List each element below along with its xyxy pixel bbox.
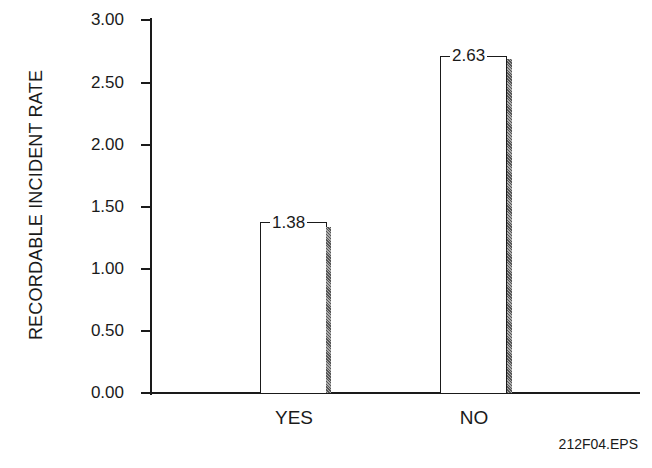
x-axis-line (150, 392, 640, 394)
y-tick (141, 144, 151, 146)
y-tick-label: 1.50 (64, 197, 124, 217)
x-category-label-yes: YES (254, 407, 334, 429)
x-category-label-no: NO (434, 407, 514, 429)
y-tick-label: 0.00 (64, 383, 124, 403)
bar-yes-shadow (326, 227, 331, 393)
y-tick (141, 268, 151, 270)
y-axis-label: RECORDABLE INCIDENT RATE (26, 70, 47, 340)
bar-no-value-label: 2.63 (450, 47, 487, 65)
y-tick (141, 392, 151, 394)
bar-yes-value-label: 1.38 (270, 214, 307, 232)
bar-no-shadow (507, 59, 512, 393)
bar-yes (260, 222, 327, 393)
y-tick (141, 206, 151, 208)
y-tick (141, 19, 151, 21)
y-tick-label: 2.50 (64, 73, 124, 93)
bar-no (440, 56, 507, 393)
y-tick-label: 3.00 (64, 10, 124, 30)
y-tick (141, 82, 151, 84)
y-tick (141, 330, 151, 332)
y-tick-label: 2.00 (64, 135, 124, 155)
y-tick-label: 0.50 (64, 321, 124, 341)
figure-id: 212F04.EPS (559, 436, 638, 452)
y-tick-label: 1.00 (64, 259, 124, 279)
